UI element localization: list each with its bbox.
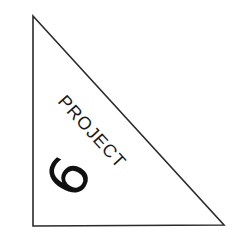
project-6-logo: PROJECT 6 <box>0 0 239 244</box>
triangle-outline <box>0 0 239 244</box>
